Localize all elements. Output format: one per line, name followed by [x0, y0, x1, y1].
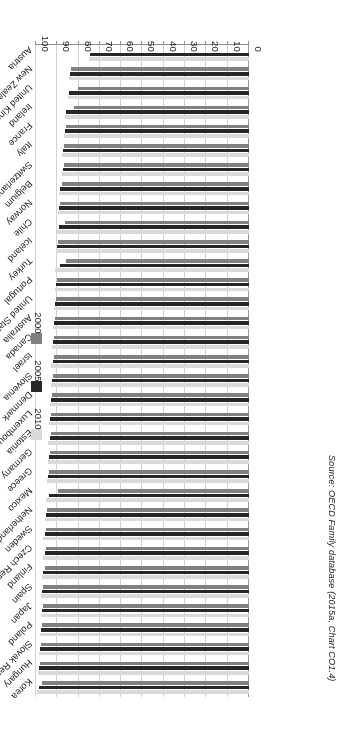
bar-2000 — [41, 643, 249, 647]
legend-label-2000: 2000 — [33, 302, 44, 344]
bar-2000 — [42, 624, 249, 628]
bar-2005 — [59, 225, 249, 229]
table-row — [36, 544, 249, 563]
table-row — [36, 582, 249, 601]
bar-2000 — [57, 278, 249, 282]
bar-2010 — [49, 422, 249, 426]
legend-label-2005: 2005 — [33, 350, 44, 392]
bar-2005 — [46, 513, 249, 517]
bar-2005 — [50, 417, 249, 421]
bar-2010 — [62, 153, 249, 157]
bar-2005 — [53, 340, 249, 344]
bar-2010 — [43, 537, 249, 541]
bar-2005 — [41, 628, 249, 632]
bar-2005 — [51, 398, 249, 402]
bar-2010 — [55, 288, 249, 292]
bar-2005 — [70, 72, 249, 76]
bar-2000 — [56, 298, 249, 302]
bar-2000 — [78, 87, 249, 91]
bar-2000 — [43, 585, 249, 589]
table-row — [36, 505, 249, 524]
bar-2005 — [53, 360, 249, 364]
bar-2010 — [51, 364, 249, 368]
bar-2000 — [54, 336, 249, 340]
table-row — [36, 45, 249, 64]
bar-2005 — [49, 494, 249, 498]
table-row — [36, 294, 249, 313]
bar-2005 — [40, 647, 249, 651]
table-row — [36, 352, 249, 371]
bar-2010 — [69, 77, 249, 81]
bar-2000 — [54, 355, 249, 359]
bar-2005 — [63, 168, 249, 172]
bar-2000 — [40, 662, 249, 666]
bar-2010 — [64, 134, 249, 138]
rotated-bar-chart-figure: 0102030405060708090100 KoreaHungarySlova… — [0, 0, 363, 737]
table-row — [36, 237, 249, 256]
bar-2010 — [51, 383, 249, 387]
bar-2005 — [54, 321, 249, 325]
table-row — [36, 141, 249, 160]
bar-2010 — [65, 115, 249, 119]
bar-2000 — [71, 67, 249, 71]
bar-2005 — [69, 91, 249, 95]
table-row — [36, 620, 249, 639]
table-row — [36, 429, 249, 448]
legend-label-2010: 2010 — [33, 398, 44, 440]
table-row — [36, 275, 249, 294]
bar-2005 — [57, 245, 249, 249]
bar-2005 — [42, 609, 249, 613]
bar-2010 — [52, 345, 249, 349]
bar-2010 — [41, 594, 249, 598]
bar-2005 — [39, 666, 249, 670]
bar-2005 — [61, 187, 250, 191]
bar-2000 — [45, 566, 249, 570]
table-row — [36, 467, 249, 486]
bar-2005 — [45, 551, 249, 555]
bar-2000 — [66, 125, 249, 129]
table-row — [36, 122, 249, 141]
table-row — [36, 333, 249, 352]
bar-2005 — [39, 686, 249, 690]
chart-legend: 201020052000 — [6, 290, 50, 440]
table-row — [36, 486, 249, 505]
bar-2005 — [56, 283, 249, 287]
bar-2010 — [40, 633, 249, 637]
bar-2005 — [66, 110, 249, 114]
source-note: Source: OECD Family database (2015a, Cha… — [327, 455, 337, 705]
bar-2005 — [45, 532, 249, 536]
table-row — [36, 179, 249, 198]
x-axis-tick-label: 0 — [253, 22, 264, 52]
bar-2005 — [63, 149, 249, 153]
table-row — [36, 448, 249, 467]
table-row — [36, 256, 249, 275]
bar-2000 — [50, 451, 249, 455]
bar-2000 — [58, 489, 249, 493]
bar-2010 — [43, 556, 249, 560]
bar-2000 — [46, 547, 249, 551]
bar-2005 — [50, 436, 249, 440]
table-row — [36, 160, 249, 179]
table-row — [36, 218, 249, 237]
bar-2000 — [55, 317, 249, 321]
bar-2010 — [54, 307, 249, 311]
bar-2010 — [47, 479, 249, 483]
bar-2000 — [74, 106, 249, 110]
bar-2010 — [55, 268, 249, 272]
bar-2010 — [57, 230, 249, 234]
table-row — [36, 313, 249, 332]
bar-2005 — [42, 590, 249, 594]
bar-2005 — [90, 53, 249, 57]
table-row — [36, 659, 249, 678]
bar-2010 — [59, 192, 249, 196]
bar-2005 — [61, 264, 250, 268]
table-row — [36, 563, 249, 582]
table-row — [36, 390, 249, 409]
chart-canvas: 0102030405060708090100 KoreaHungarySlova… — [0, 0, 363, 737]
bar-2000 — [66, 259, 249, 263]
bar-2000 — [58, 240, 249, 244]
bar-2010 — [48, 460, 249, 464]
bar-2005 — [48, 475, 249, 479]
bar-2000 — [46, 528, 249, 532]
bar-2000 — [61, 202, 250, 206]
